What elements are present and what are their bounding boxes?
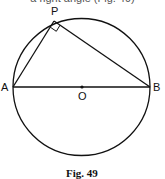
chord-ap bbox=[13, 21, 54, 87]
label-p: P bbox=[51, 5, 58, 17]
label-b: B bbox=[153, 81, 160, 93]
figure-caption: Fig. 49 bbox=[66, 167, 98, 179]
geometry-diagram: P A B O Fig. 49 bbox=[0, 0, 165, 179]
figure-49: a right angle (Fig. 49) P A B O Fig. 49 bbox=[0, 0, 165, 179]
label-o: O bbox=[78, 90, 87, 102]
label-a: A bbox=[1, 81, 9, 93]
center-point-o bbox=[80, 85, 83, 88]
chord-pb bbox=[54, 21, 150, 87]
